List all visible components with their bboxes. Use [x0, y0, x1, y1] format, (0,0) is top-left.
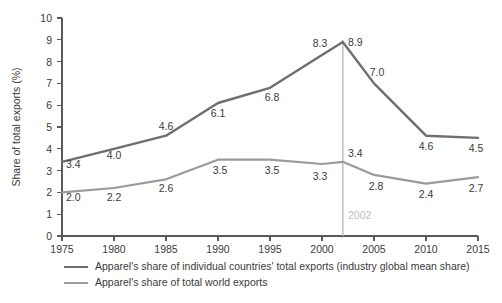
line-chart: 10 9 8 7 6 5 4 3 2 1 0 Share of total ex…	[0, 0, 502, 303]
point-label-b-1980: 2.2	[107, 191, 122, 203]
legend-swatch-icon-individual-countries	[64, 266, 88, 268]
x-tick-label-1975: 1975	[50, 243, 74, 255]
legend-item-world-exports: Apparel's share of total world exports	[64, 275, 494, 290]
x-tick-label-2000: 2000	[310, 243, 334, 255]
y-tick-label-8: 8	[46, 56, 52, 68]
point-label-b-2005: 2.8	[369, 180, 384, 192]
point-label-b-1985: 2.6	[159, 182, 174, 194]
y-tick-label-10: 10	[40, 12, 52, 24]
point-label-a-1990: 6.1	[211, 107, 226, 119]
y-tick-label-1: 1	[46, 208, 52, 220]
point-label-b-2015: 2.7	[469, 182, 484, 194]
point-label-a-1985: 4.6	[159, 120, 174, 132]
chart-container: 10 9 8 7 6 5 4 3 2 1 0 Share of total ex…	[0, 0, 502, 303]
y-tick-label-5: 5	[46, 121, 52, 133]
x-tick-label-1985: 1985	[154, 243, 178, 255]
reference-line-label-2002: 2002	[348, 209, 372, 221]
y-tick-label-4: 4	[46, 143, 52, 155]
point-label-a-1995: 6.8	[265, 91, 280, 103]
point-label-a-2005: 7.0	[370, 66, 385, 78]
x-tick-label-1995: 1995	[258, 243, 282, 255]
point-label-a-2002: 8.9	[348, 36, 363, 48]
y-tick-label-3: 3	[46, 165, 52, 177]
point-label-b-1995: 3.5	[265, 164, 280, 176]
x-tick-label-2015: 2015	[466, 243, 490, 255]
point-label-b-2002: 3.4	[348, 147, 363, 159]
point-label-b-1990: 3.5	[213, 164, 228, 176]
chart-legend: Apparel's share of individual countries'…	[64, 259, 494, 291]
legend-item-individual-countries: Apparel's share of individual countries'…	[64, 259, 494, 274]
point-label-b-2000: 3.3	[313, 170, 328, 182]
point-label-b-2010: 2.4	[419, 188, 434, 200]
y-tick-label-2: 2	[46, 186, 52, 198]
legend-label-world-exports: Apparel's share of total world exports	[95, 276, 267, 289]
point-label-a-1980: 4.0	[107, 149, 122, 161]
x-tick-label-1990: 1990	[206, 243, 230, 255]
y-tick-label-0: 0	[46, 230, 52, 242]
legend-swatch-icon-world-exports	[64, 282, 88, 284]
point-label-a-2000: 8.3	[313, 37, 328, 49]
y-tick-label-7: 7	[46, 77, 52, 89]
x-tick-label-2010: 2010	[414, 243, 438, 255]
x-tick-label-1980: 1980	[102, 243, 126, 255]
y-axis-title: Share of total exports (%)	[10, 67, 22, 186]
point-label-a-1975: 3.4	[66, 158, 81, 170]
y-tick-label-6: 6	[46, 99, 52, 111]
y-tick-label-9: 9	[46, 34, 52, 46]
legend-label-individual-countries: Apparel's share of individual countries'…	[95, 260, 470, 273]
point-label-a-2010: 4.6	[419, 140, 434, 152]
point-label-a-2015: 4.5	[469, 142, 484, 154]
x-tick-label-2005: 2005	[362, 243, 386, 255]
point-label-b-1975: 2.0	[66, 191, 81, 203]
